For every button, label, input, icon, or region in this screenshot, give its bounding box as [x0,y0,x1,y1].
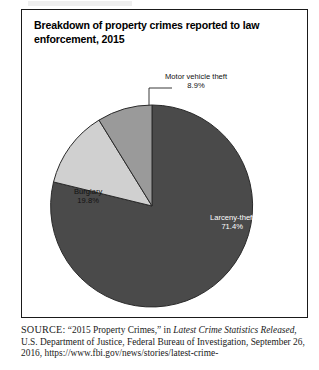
pie-label-motor-vehicle-theft: Motor vehicle theft 8.9% [165,72,227,91]
pie-label-motor-vehicle-theft-name: Motor vehicle theft [165,72,227,81]
pie-label-burglary-name: Burglary [74,187,102,196]
source-note: SOURCE: “2015 Property Crimes,” in Lates… [21,324,313,360]
pie-label-burglary: Burglary 19.8% [74,187,102,206]
pie-label-larceny-theft-name: Larceny-theft [210,213,254,222]
source-line1-part1: “2015 Property Crimes,” in [65,325,173,335]
pie-chart-svg [22,10,309,319]
figure-container: Breakdown of property crimes reported to… [21,9,308,318]
pie-label-motor-vehicle-theft-value: 8.9% [165,81,227,90]
scan-artifact [28,1,132,6]
pie-label-larceny-theft-value: 71.4% [210,222,254,231]
source-line2: U.S. Department of Justice, Federal Bure… [21,337,248,347]
pie-chart: Motor vehicle theft 8.9% Burglary 19.8% … [22,10,309,319]
pie-label-burglary-value: 19.8% [74,196,102,205]
source-line1-title: Latest Crime Statistics Released, [173,325,296,335]
pie-label-larceny-theft: Larceny-theft 71.4% [210,213,254,232]
source-label: SOURCE: [21,324,65,335]
